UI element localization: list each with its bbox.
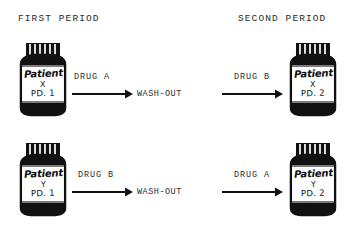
second-period-header: SECOND PERIOD: [238, 13, 326, 24]
drug-label-bottom-second: DRUG A: [234, 170, 270, 180]
arrow-top-second: [222, 88, 284, 100]
pill-bottle-patient-y-period-2: Patient Y PD. 2: [284, 140, 342, 218]
crossover-trial-diagram: FIRST PERIOD SECOND PERIOD Patient X PD.…: [0, 0, 348, 227]
drug-label-top-second: DRUG B: [234, 72, 270, 82]
first-period-header: FIRST PERIOD: [18, 13, 100, 24]
arrow-bottom-first: [72, 186, 134, 198]
drug-label-top-first: DRUG A: [74, 72, 110, 82]
pill-bottle-icon: [14, 140, 72, 218]
arrow-top-first: [72, 88, 134, 100]
arrow-right-icon: [222, 88, 284, 100]
arrow-right-icon: [72, 88, 134, 100]
drug-label-bottom-first: DRUG B: [78, 170, 114, 180]
arrow-bottom-second: [222, 186, 284, 198]
arrow-right-icon: [72, 186, 134, 198]
pill-bottle-patient-x-period-2: Patient X PD. 2: [284, 40, 342, 118]
pill-bottle-patient-y-period-1: Patient Y PD. 1: [14, 140, 72, 218]
washout-node-top: WASH-OUT: [137, 89, 182, 99]
pill-bottle-icon: [284, 140, 342, 218]
washout-node-bottom: WASH-OUT: [137, 187, 182, 197]
pill-bottle-patient-x-period-1: Patient X PD. 1: [14, 40, 72, 118]
pill-bottle-icon: [284, 40, 342, 118]
arrow-right-icon: [222, 186, 284, 198]
pill-bottle-icon: [14, 40, 72, 118]
